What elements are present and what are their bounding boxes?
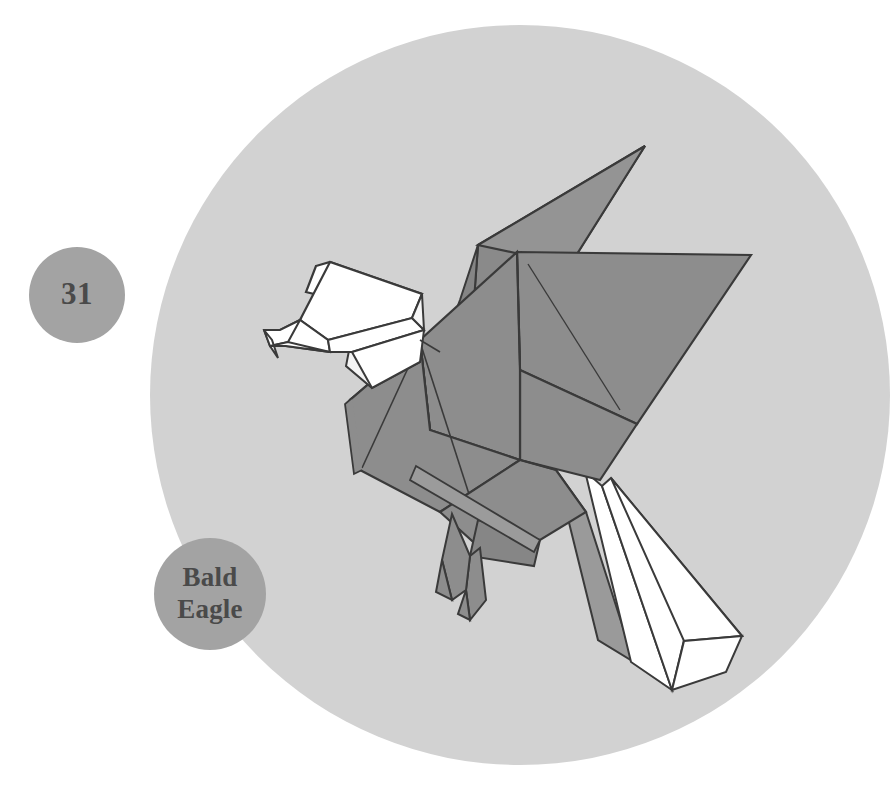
number-badge[interactable]: 31 <box>29 247 125 343</box>
illustration-stage: 31 Bald Eagle <box>0 0 896 791</box>
origami-eagle-illustration: 31 Bald Eagle <box>0 0 896 791</box>
name-badge-label-line2: Eagle <box>177 594 243 624</box>
name-badge-label-line1: Bald <box>183 562 238 592</box>
name-badge[interactable]: Bald Eagle <box>154 538 266 650</box>
number-badge-label: 31 <box>61 276 93 311</box>
